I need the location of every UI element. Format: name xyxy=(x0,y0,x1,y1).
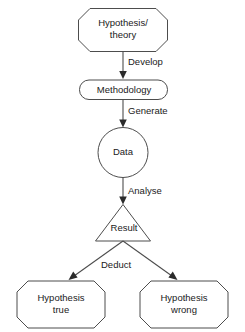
edge-deduct-left-arrowhead xyxy=(69,271,78,280)
node-hypothesis-theory-shape xyxy=(79,9,168,52)
node-methodology-shape xyxy=(80,80,168,100)
edge-analyse-arrowhead xyxy=(119,197,127,205)
edge-deduct-right-arrowhead xyxy=(168,271,177,280)
flowchart-diagram: Hypothesis/ theory Methodology Data Resu… xyxy=(0,0,245,332)
edge-deduct-left-line xyxy=(74,241,123,276)
node-result-shape xyxy=(96,205,151,242)
node-data-shape xyxy=(98,128,148,178)
flowchart-canvas xyxy=(0,0,245,332)
node-hypothesis-wrong-shape xyxy=(140,281,228,328)
edge-deduct-right-line xyxy=(123,241,172,276)
node-hypothesis-true-shape xyxy=(17,281,105,328)
edge-generate-arrowhead xyxy=(119,120,127,128)
edge-develop-arrowhead xyxy=(119,71,127,79)
